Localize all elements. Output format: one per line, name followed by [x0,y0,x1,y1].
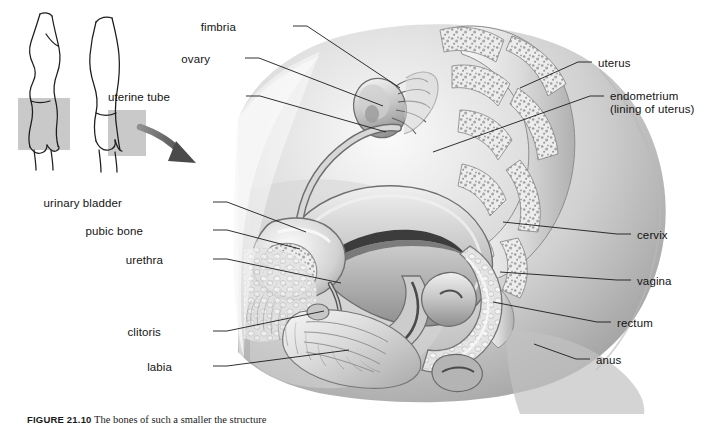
label-text: ovary [181,53,210,65]
label-endometrium: endometrium(lining of uterus) [610,90,695,116]
cervix [422,272,477,326]
label-text: urethra [126,254,163,266]
inset-highlight-left [18,98,70,150]
figure-caption: FIGURE 21.10 The bones of such a smaller… [27,414,266,425]
caption-text: The bones of such a smaller the structur… [94,414,266,425]
label-urinary-bladder: urinary bladder [0,197,122,210]
label-urethra: urethra [0,254,163,267]
ovarian-follicle [365,105,379,123]
label-labia: labia [0,361,172,374]
label-text: vagina [637,275,672,287]
label-uterus: uterus [598,57,631,70]
label-rectum: rectum [617,317,653,330]
label-ovary: ovary [0,53,210,66]
label-text: fimbria [201,21,236,33]
label-anus: anus [596,354,621,367]
inset-highlight-right [108,110,146,156]
label-cervix: cervix [637,229,668,242]
label-pubic-bone: pubic bone [0,225,143,238]
label-vagina: vagina [637,275,672,288]
pointer-arrow [140,127,196,163]
label-text: urinary bladder [44,197,122,209]
anal-canal [432,354,482,391]
label-text: clitoris [127,326,161,338]
label-subtext: (lining of uterus) [610,103,695,116]
label-text: cervix [637,229,668,241]
cervix-body [422,272,477,326]
label-clitoris: clitoris [0,326,161,339]
figure-container: fimbriaovaryuterine tubeurinary bladderp… [0,0,712,425]
caption-tag: FIGURE 21.10 [27,414,92,425]
label-text: pubic bone [86,225,143,237]
label-text: anus [596,354,621,366]
label-text: endometrium [610,90,678,102]
label-text: rectum [617,317,653,329]
label-text: labia [147,361,172,373]
label-fimbria: fimbria [0,21,236,34]
label-text: uterus [598,57,631,69]
label-text: uterine tube [108,91,170,103]
anus [432,354,482,391]
label-uterine-tube: uterine tube [0,91,170,104]
